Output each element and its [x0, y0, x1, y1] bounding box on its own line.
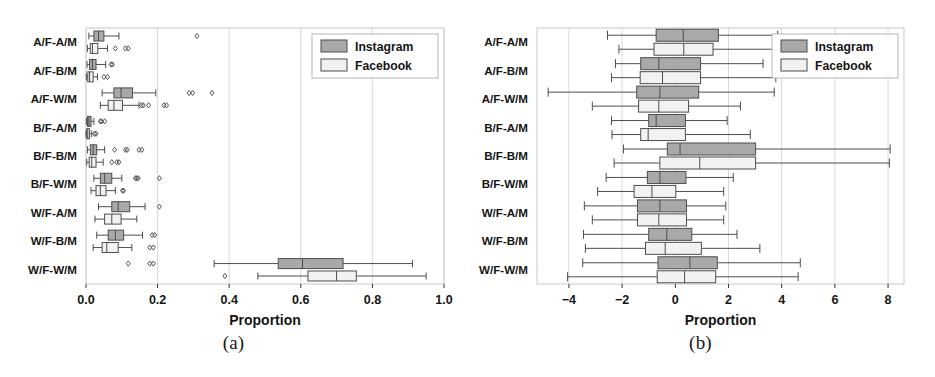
x-tick-label: 6: [831, 293, 838, 307]
x-tick-label: 0.4: [221, 293, 238, 307]
y-category-label: A/F-B/M: [484, 64, 528, 77]
x-tick-label: 0.2: [149, 293, 166, 307]
legend-swatch-facebook: [781, 59, 807, 71]
y-category-label: A/F-A/M: [484, 35, 528, 48]
x-axis-title: Proportion: [229, 312, 301, 328]
legend-label-instagram: Instagram: [355, 40, 413, 54]
x-tick-label: −2: [615, 293, 629, 307]
x-tick-label: 2: [725, 293, 732, 307]
legend-label-facebook: Facebook: [815, 59, 872, 73]
x-tick-label: 1.0: [435, 293, 452, 307]
panel-a: 0.00.20.40.60.81.0ProportionA/F-A/MA/F-B…: [0, 0, 467, 377]
x-tick-label: −4: [562, 293, 576, 307]
x-tick-label: 0.8: [364, 293, 381, 307]
y-category-label: A/F-W/M: [31, 92, 77, 105]
y-category-label: B/F-A/M: [33, 121, 77, 134]
y-category-label: A/F-A/M: [33, 35, 77, 48]
y-category-label: W/F-A/M: [31, 206, 77, 219]
panel-b-caption: (b): [467, 332, 934, 354]
y-category-label: A/F-W/M: [482, 92, 528, 105]
x-axis-title: Proportion: [685, 312, 757, 328]
x-tick-label: 0.6: [292, 293, 309, 307]
y-category-label: B/F-W/M: [482, 177, 528, 190]
y-category-label: W/F-B/M: [31, 234, 77, 247]
legend: InstagramFacebook: [772, 34, 898, 78]
y-category-label: A/F-B/M: [33, 64, 77, 77]
figure-container: 0.00.20.40.60.81.0ProportionA/F-A/MA/F-B…: [0, 0, 935, 377]
legend-swatch-facebook: [321, 59, 347, 71]
legend-swatch-instagram: [321, 40, 347, 52]
y-category-label: W/F-W/M: [28, 263, 77, 276]
y-category-label: W/F-B/M: [482, 234, 528, 247]
x-tick-label: 0: [672, 293, 679, 307]
y-category-label: W/F-A/M: [482, 206, 528, 219]
legend-swatch-instagram: [781, 40, 807, 52]
panel-b: −4−202468ProportionA/F-A/MA/F-B/MA/F-W/M…: [467, 0, 934, 377]
panel-a-caption: (a): [0, 332, 467, 354]
y-category-label: B/F-B/M: [33, 149, 77, 162]
boxplot-chart-a: 0.00.20.40.60.81.0ProportionA/F-A/MA/F-B…: [0, 0, 467, 330]
legend-label-instagram: Instagram: [815, 40, 873, 54]
y-category-label: B/F-B/M: [484, 149, 528, 162]
y-category-label: B/F-W/M: [31, 177, 77, 190]
boxplot-chart-b: −4−202468ProportionA/F-A/MA/F-B/MA/F-W/M…: [467, 0, 934, 330]
y-category-label: B/F-A/M: [484, 121, 528, 134]
x-tick-label: 0.0: [77, 293, 94, 307]
y-category-label: W/F-W/M: [479, 263, 528, 276]
legend: InstagramFacebook: [312, 34, 438, 78]
legend-label-facebook: Facebook: [355, 59, 412, 73]
x-tick-label: 8: [885, 293, 892, 307]
x-tick-label: 4: [778, 293, 785, 307]
